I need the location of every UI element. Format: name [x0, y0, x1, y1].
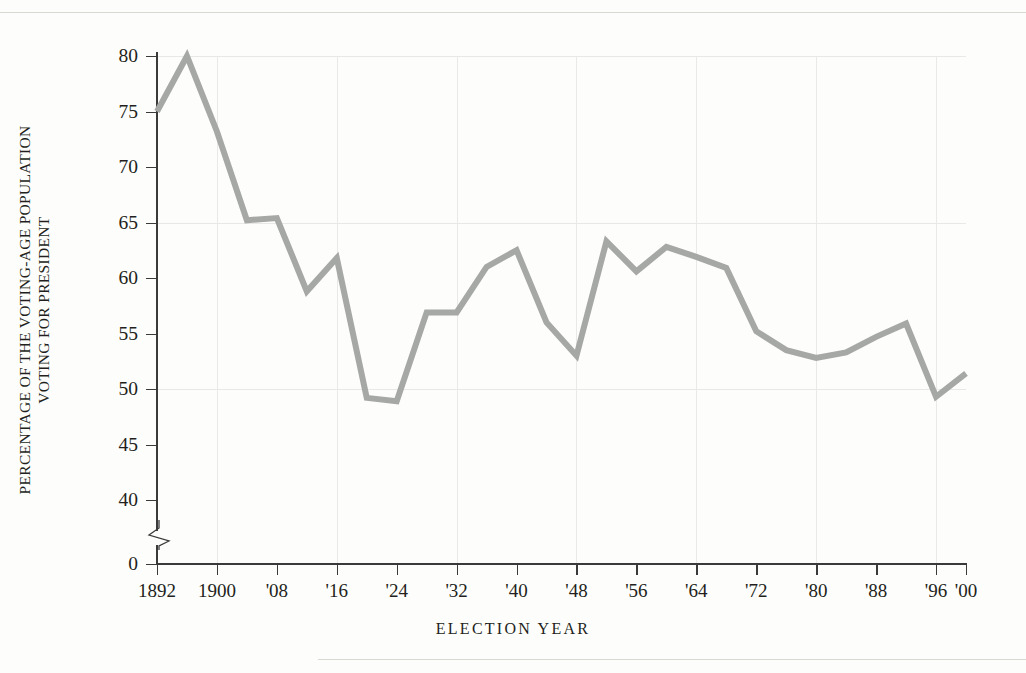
data-line — [0, 0, 1026, 673]
x-axis-title: ELECTION YEAR — [0, 620, 1026, 638]
figure-page: PERCENTAGE OF THE VOTING-AGE POPULATION … — [0, 0, 1026, 673]
turnout-line — [157, 56, 966, 401]
line-chart: PERCENTAGE OF THE VOTING-AGE POPULATION … — [0, 0, 1026, 673]
